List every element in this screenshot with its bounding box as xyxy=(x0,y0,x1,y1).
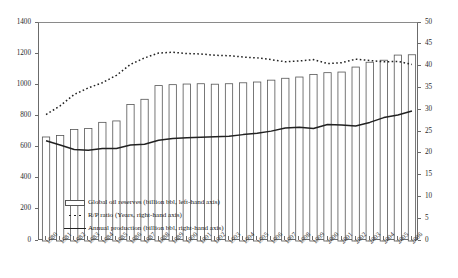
left-tick-label: 400 xyxy=(20,173,31,181)
right-tick-label: 40 xyxy=(425,61,432,69)
right-tick-label: 50 xyxy=(425,18,432,26)
legend-item-production: Annual production (billion bbl, right-ha… xyxy=(62,222,258,235)
right-tick-label: 35 xyxy=(425,83,432,91)
bar-swatch-icon xyxy=(62,196,88,209)
left-tick-label: 1000 xyxy=(17,80,31,88)
legend-label-production: Annual production (billion bbl, right-ha… xyxy=(88,225,224,232)
solid-line-swatch-icon xyxy=(62,222,88,235)
left-tick-label: 600 xyxy=(20,142,31,150)
left-tick-label: 1200 xyxy=(17,49,31,57)
right-tick-label: 45 xyxy=(425,39,432,47)
chart-legend: Global oil reserves (billion bbl, left-h… xyxy=(62,196,258,235)
right-tick-label: 15 xyxy=(425,170,432,178)
chart-figure: 0200400600800100012001400 05101520253035… xyxy=(0,0,458,278)
x-axis-year-labels: 1980198119821983198419851986198719881989… xyxy=(38,240,418,278)
annual-production-line xyxy=(46,111,412,150)
left-tick-label: 0 xyxy=(27,236,31,244)
left-tick-label: 800 xyxy=(20,111,31,119)
right-tick-label: 10 xyxy=(425,192,432,200)
legend-item-reserves: Global oil reserves (billion bbl, left-h… xyxy=(62,196,258,209)
right-tick-label: 25 xyxy=(425,127,432,135)
legend-label-rp-ratio: R/P ratio (Years, right-hand axis) xyxy=(88,212,182,219)
right-tick-label: 20 xyxy=(425,148,432,156)
legend-item-rp-ratio: R/P ratio (Years, right-hand axis) xyxy=(62,209,258,222)
dotted-line-swatch-icon xyxy=(62,209,88,222)
legend-label-reserves: Global oil reserves (billion bbl, left-h… xyxy=(88,199,220,206)
right-tick-label: 30 xyxy=(425,105,432,113)
left-tick-label: 200 xyxy=(20,204,31,212)
left-tick-label: 1400 xyxy=(17,18,31,26)
right-tick-label: 5 xyxy=(425,214,429,222)
right-tick-label: 0 xyxy=(425,236,429,244)
